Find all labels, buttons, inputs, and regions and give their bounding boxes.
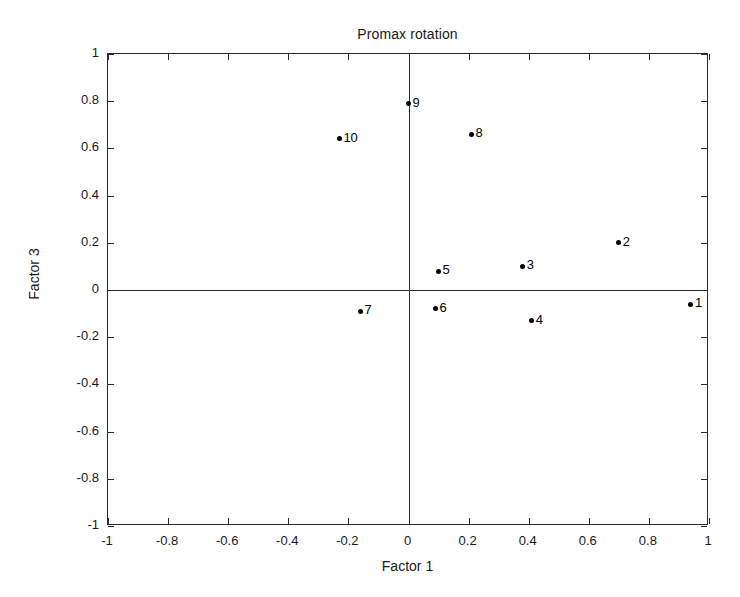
- data-point-label-4: 4: [536, 313, 543, 327]
- x-tick-top-9: [649, 54, 650, 60]
- data-point-2[interactable]: [616, 240, 621, 245]
- y-tick-label-8: -0.6: [39, 423, 99, 438]
- x-tick-label-1: -0.8: [137, 533, 197, 548]
- y-tick-right-9: [701, 479, 707, 480]
- y-tick-label-9: -0.8: [39, 470, 99, 485]
- data-point-label-2: 2: [623, 235, 630, 249]
- y-tick-5: [108, 290, 114, 291]
- data-point-1[interactable]: [688, 302, 693, 307]
- y-tick-8: [108, 432, 114, 433]
- y-tick-4: [108, 243, 114, 244]
- y-tick-1: [108, 101, 114, 102]
- x-tick-1: [168, 518, 169, 524]
- x-tick-5: [409, 518, 410, 524]
- x-tick-9: [649, 518, 650, 524]
- data-point-label-1: 1: [695, 296, 702, 310]
- y-tick-label-4: 0.2: [39, 234, 99, 249]
- data-point-label-6: 6: [440, 301, 447, 315]
- x-tick-0: [108, 518, 109, 524]
- y-tick-right-0: [701, 54, 707, 55]
- x-tick-label-6: 0.2: [438, 533, 498, 548]
- data-point-9[interactable]: [406, 101, 411, 106]
- x-tick-label-5: 0: [378, 533, 438, 548]
- data-point-label-9: 9: [413, 96, 420, 110]
- y-tick-label-5: 0: [39, 281, 99, 296]
- y-tick-right-7: [701, 384, 707, 385]
- horizontal-zero-reference-line: [108, 290, 707, 291]
- y-tick-10: [108, 526, 114, 527]
- data-point-7[interactable]: [358, 309, 363, 314]
- y-tick-right-4: [701, 243, 707, 244]
- y-tick-2: [108, 148, 114, 149]
- data-point-label-10: 10: [343, 131, 357, 145]
- x-tick-6: [469, 518, 470, 524]
- x-tick-top-5: [409, 54, 410, 60]
- scatter-plot-figure: Promax rotation 12345678910 -1-0.8-0.6-0…: [0, 0, 740, 597]
- data-point-label-8: 8: [476, 126, 483, 140]
- data-point-8[interactable]: [469, 132, 474, 137]
- data-point-10[interactable]: [337, 136, 342, 141]
- x-tick-top-6: [469, 54, 470, 60]
- x-tick-label-2: -0.6: [197, 533, 257, 548]
- x-tick-top-8: [589, 54, 590, 60]
- x-tick-top-2: [228, 54, 229, 60]
- data-point-label-7: 7: [364, 303, 371, 317]
- data-point-3[interactable]: [520, 264, 525, 269]
- x-tick-top-10: [709, 54, 710, 60]
- y-tick-label-0: 1: [39, 45, 99, 60]
- y-tick-0: [108, 54, 114, 55]
- page-title: Promax rotation: [107, 26, 708, 42]
- x-tick-10: [709, 518, 710, 524]
- x-tick-top-7: [529, 54, 530, 60]
- x-tick-label-8: 0.6: [558, 533, 618, 548]
- x-tick-3: [288, 518, 289, 524]
- x-tick-label-0: -1: [77, 533, 137, 548]
- x-tick-label-3: -0.4: [257, 533, 317, 548]
- y-tick-7: [108, 384, 114, 385]
- x-axis-title: Factor 1: [107, 558, 708, 574]
- data-point-5[interactable]: [436, 269, 441, 274]
- y-tick-right-5: [701, 290, 707, 291]
- x-tick-4: [348, 518, 349, 524]
- x-tick-label-9: 0.8: [618, 533, 678, 548]
- x-tick-label-7: 0.4: [498, 533, 558, 548]
- x-tick-8: [589, 518, 590, 524]
- y-tick-label-2: 0.6: [39, 139, 99, 154]
- y-tick-3: [108, 196, 114, 197]
- x-tick-7: [529, 518, 530, 524]
- x-tick-top-4: [348, 54, 349, 60]
- data-point-label-5: 5: [443, 263, 450, 277]
- y-tick-label-7: -0.4: [39, 375, 99, 390]
- y-tick-label-3: 0.4: [39, 187, 99, 202]
- y-tick-right-1: [701, 101, 707, 102]
- y-axis-title: Factor 3: [26, 194, 42, 354]
- vertical-zero-reference-line: [409, 54, 410, 524]
- y-tick-right-2: [701, 148, 707, 149]
- x-tick-2: [228, 518, 229, 524]
- y-tick-label-6: -0.2: [39, 328, 99, 343]
- plot-area: 12345678910: [107, 53, 708, 525]
- y-tick-right-3: [701, 196, 707, 197]
- data-point-4[interactable]: [529, 318, 534, 323]
- data-point-label-3: 3: [527, 258, 534, 272]
- y-tick-label-10: -1: [39, 517, 99, 532]
- x-tick-label-10: 1: [678, 533, 738, 548]
- y-tick-right-10: [701, 526, 707, 527]
- data-point-6[interactable]: [433, 306, 438, 311]
- y-tick-label-1: 0.8: [39, 92, 99, 107]
- y-tick-right-8: [701, 432, 707, 433]
- y-tick-6: [108, 337, 114, 338]
- x-tick-top-1: [168, 54, 169, 60]
- y-tick-9: [108, 479, 114, 480]
- x-tick-top-3: [288, 54, 289, 60]
- y-tick-right-6: [701, 337, 707, 338]
- x-tick-label-4: -0.2: [317, 533, 377, 548]
